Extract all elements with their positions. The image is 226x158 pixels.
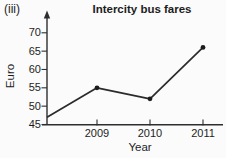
fare-point-marker [201,45,206,50]
fare-line [47,47,203,117]
y-tick-label: 60 [15,63,41,76]
x-tick-label: 2010 [130,127,170,140]
y-tick-label: 55 [15,81,41,94]
y-tick-label: 45 [15,118,41,131]
x-tick-label: 2011 [183,127,223,140]
y-tick-label: 65 [15,45,41,58]
intercity-bus-fares-chart: (iii) Intercity bus fares Euro Year 4550… [0,0,226,158]
fare-point-marker [148,96,153,101]
y-tick-label: 50 [15,100,41,113]
y-tick-label: 70 [15,26,41,39]
x-tick-label: 2009 [77,127,117,140]
y-axis-arrow-icon [44,11,50,19]
fare-point-marker [95,85,100,90]
